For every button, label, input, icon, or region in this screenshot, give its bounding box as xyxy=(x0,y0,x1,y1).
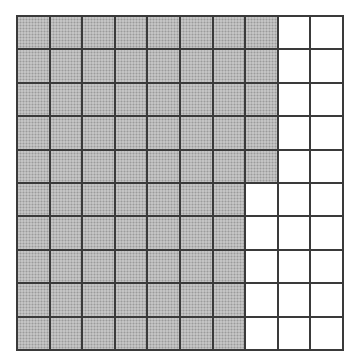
grid-cell-shaded xyxy=(51,318,84,351)
grid-cell-shaded xyxy=(214,151,247,184)
grid-cell-shaded xyxy=(181,184,214,217)
grid-cell-shaded xyxy=(18,117,51,150)
grid-cell-shaded xyxy=(214,251,247,284)
grid-cell-empty xyxy=(246,318,279,351)
grid-cell-shaded xyxy=(18,50,51,83)
grid-cell-shaded xyxy=(51,84,84,117)
grid-cell-shaded xyxy=(181,17,214,50)
grid-cell-shaded xyxy=(83,217,116,250)
grid-cell-shaded xyxy=(181,50,214,83)
grid-cell-shaded xyxy=(246,151,279,184)
grid-cell-shaded xyxy=(181,284,214,317)
grid-cell-empty xyxy=(279,151,312,184)
grid-cell-shaded xyxy=(18,17,51,50)
grid-cell-shaded xyxy=(246,50,279,83)
grid-cell-shaded xyxy=(181,117,214,150)
grid-cell-shaded xyxy=(214,217,247,250)
grid-cell-shaded xyxy=(116,251,149,284)
grid-cell-shaded xyxy=(51,50,84,83)
grid-cell-shaded xyxy=(116,50,149,83)
grid-cell-shaded xyxy=(83,117,116,150)
grid-cell-shaded xyxy=(148,217,181,250)
grid-cell-shaded xyxy=(116,84,149,117)
grid-cell-shaded xyxy=(148,50,181,83)
grid-cell-shaded xyxy=(83,284,116,317)
grid-cell-shaded xyxy=(18,318,51,351)
grid-cell-shaded xyxy=(18,217,51,250)
grid-cell-shaded xyxy=(51,251,84,284)
grid-cell-empty xyxy=(311,318,344,351)
grid-cell-shaded xyxy=(51,151,84,184)
grid-cell-shaded xyxy=(51,284,84,317)
grid-cell-shaded xyxy=(214,284,247,317)
grid-cell-shaded xyxy=(181,217,214,250)
grid-cell-shaded xyxy=(148,318,181,351)
grid-cell-empty xyxy=(279,217,312,250)
grid-cell-shaded xyxy=(214,84,247,117)
grid-cell-empty xyxy=(246,184,279,217)
grid-cell-shaded xyxy=(116,217,149,250)
grid-cell-shaded xyxy=(214,184,247,217)
grid-cell-shaded xyxy=(83,184,116,217)
grid-cell-shaded xyxy=(116,151,149,184)
grid-cell-shaded xyxy=(83,84,116,117)
grid-cell-empty xyxy=(311,17,344,50)
grid-cell-empty xyxy=(246,284,279,317)
grid-cell-shaded xyxy=(18,151,51,184)
grid-cell-shaded xyxy=(83,151,116,184)
grid-cell-empty xyxy=(279,50,312,83)
grid-cell-empty xyxy=(311,84,344,117)
grid-cell-empty xyxy=(279,184,312,217)
grid-cell-shaded xyxy=(116,318,149,351)
grid-cell-shaded xyxy=(148,184,181,217)
grid-cell-shaded xyxy=(51,217,84,250)
grid-cell-shaded xyxy=(148,251,181,284)
grid-cell-shaded xyxy=(246,84,279,117)
grid-cell-empty xyxy=(279,318,312,351)
grid-cell-shaded xyxy=(116,117,149,150)
grid-cell-shaded xyxy=(214,17,247,50)
grid-cell-empty xyxy=(311,251,344,284)
grid-cell-shaded xyxy=(181,251,214,284)
grid-cell-shaded xyxy=(148,284,181,317)
grid-cell-shaded xyxy=(148,151,181,184)
grid-cell-empty xyxy=(311,151,344,184)
grid-cell-empty xyxy=(279,251,312,284)
grid-cell-empty xyxy=(311,284,344,317)
hundred-grid-diagram xyxy=(16,15,344,351)
grid-cell-shaded xyxy=(18,284,51,317)
grid-cell-shaded xyxy=(246,117,279,150)
grid-cell-shaded xyxy=(246,17,279,50)
grid-cell-shaded xyxy=(18,84,51,117)
grid-cell-empty xyxy=(279,17,312,50)
grid-cell-shaded xyxy=(116,184,149,217)
grid-cell-shaded xyxy=(148,84,181,117)
grid-cell-shaded xyxy=(83,50,116,83)
grid-cell-shaded xyxy=(18,251,51,284)
grid-cell-shaded xyxy=(148,17,181,50)
grid-cell-shaded xyxy=(116,17,149,50)
grid-cell-shaded xyxy=(214,50,247,83)
grid-cell-empty xyxy=(279,84,312,117)
grid-cell-empty xyxy=(246,217,279,250)
grid-cell-shaded xyxy=(51,184,84,217)
grid-cell-empty xyxy=(311,117,344,150)
grid-cell-shaded xyxy=(116,284,149,317)
grid-cell-empty xyxy=(279,117,312,150)
grid-cell-shaded xyxy=(18,184,51,217)
grid-cell-shaded xyxy=(83,17,116,50)
grid-cell-empty xyxy=(311,184,344,217)
grid-cell-shaded xyxy=(214,318,247,351)
grid-cell-shaded xyxy=(83,251,116,284)
grid-cell-shaded xyxy=(181,151,214,184)
grid-cell-shaded xyxy=(214,117,247,150)
grid-cell-shaded xyxy=(83,318,116,351)
grid-cell-shaded xyxy=(181,318,214,351)
grid-cell-shaded xyxy=(51,17,84,50)
grid-cell-shaded xyxy=(181,84,214,117)
grid-cell-empty xyxy=(311,217,344,250)
grid-cell-empty xyxy=(311,50,344,83)
grid-cell-empty xyxy=(246,251,279,284)
grid-cell-shaded xyxy=(148,117,181,150)
grid-cell-empty xyxy=(279,284,312,317)
